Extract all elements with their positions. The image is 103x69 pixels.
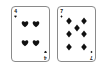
card-rank-label: 4 [14,9,16,14]
diamond-icon [65,30,73,38]
diamond-icon [65,43,73,51]
pip-field-diamonds [63,16,90,52]
card-four-of-hearts[interactable]: 4 4 [11,6,50,62]
heart-icon [32,39,40,47]
heart-icon [21,20,29,28]
card-seven-of-diamonds[interactable]: 7 [57,6,96,62]
heart-icon [44,51,47,54]
heart-icon [32,20,40,28]
card-index-bottom-right: 7 [90,51,93,60]
card-rank-label: 4 [44,54,46,59]
card-index-bottom-right: 4 [44,51,47,60]
diamond-icon [80,17,88,25]
card-rank-label: 7 [60,9,62,14]
heart-icon [21,39,29,47]
card-rank-label: 7 [90,54,92,59]
diamond-icon [90,51,93,54]
pip-field-hearts [17,16,44,52]
playing-cards-scene: 4 4 [0,0,103,69]
diamond-icon [80,30,88,38]
diamond-icon [80,43,88,51]
